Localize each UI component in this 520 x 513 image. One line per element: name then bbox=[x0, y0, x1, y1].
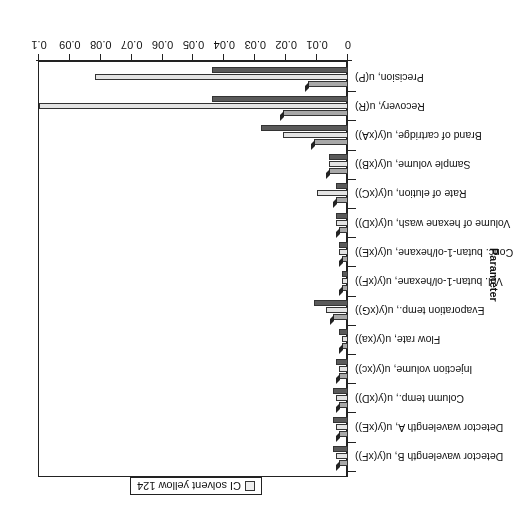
x-tick-label: 0.07 bbox=[121, 39, 142, 51]
bar bbox=[95, 74, 348, 80]
y-axis-label: Parameter bbox=[488, 248, 500, 302]
bar bbox=[339, 431, 348, 437]
x-tick bbox=[285, 54, 286, 61]
bar bbox=[333, 417, 348, 423]
bar bbox=[336, 183, 348, 189]
bar bbox=[336, 453, 348, 459]
bar bbox=[339, 366, 348, 372]
category-tick bbox=[348, 442, 356, 443]
category-tick bbox=[348, 354, 356, 355]
x-tick-label: 0.05 bbox=[183, 39, 204, 51]
bar bbox=[336, 424, 348, 430]
bar bbox=[342, 278, 348, 284]
bar bbox=[342, 343, 348, 349]
category-tick bbox=[348, 150, 356, 151]
bar bbox=[333, 446, 348, 452]
bar bbox=[339, 460, 348, 466]
x-tick bbox=[38, 54, 39, 61]
rotated-chart: CI solvent yellow 124 00.010.020.030.040… bbox=[0, 0, 520, 513]
bar bbox=[333, 314, 348, 320]
bar bbox=[212, 96, 348, 102]
bar bbox=[308, 81, 348, 87]
bar bbox=[261, 125, 348, 131]
x-tick bbox=[347, 54, 348, 61]
bar bbox=[336, 220, 348, 226]
x-tick-label: 0.09 bbox=[59, 39, 80, 51]
bar bbox=[336, 213, 348, 219]
bar bbox=[339, 227, 348, 233]
category-label: Evaporation temp., u(y(xG)) bbox=[355, 305, 485, 317]
bar bbox=[342, 285, 348, 291]
category-label: Detector wavelength A, u(y(xE)) bbox=[355, 422, 503, 434]
category-tick bbox=[348, 237, 356, 238]
bar bbox=[333, 388, 348, 394]
x-tick-label: 0.04 bbox=[214, 39, 235, 51]
category-tick bbox=[348, 412, 356, 413]
x-tick-label: 0.08 bbox=[90, 39, 111, 51]
category-tick bbox=[348, 208, 356, 209]
x-tick bbox=[193, 54, 194, 61]
x-tick-label: 0 bbox=[345, 39, 351, 51]
category-label: Brand of cartridge, u(y(xA)) bbox=[355, 130, 482, 142]
bar bbox=[314, 300, 348, 306]
category-label: Flow rate, u(y(xa)) bbox=[355, 334, 440, 346]
bar bbox=[336, 359, 348, 365]
category-label: Recovery, u(R) bbox=[355, 101, 425, 113]
x-axis bbox=[36, 60, 352, 61]
x-tick bbox=[131, 54, 132, 61]
bar bbox=[342, 271, 348, 277]
bar bbox=[317, 190, 348, 196]
category-label: Precision, u(P) bbox=[355, 72, 424, 84]
bar bbox=[342, 256, 348, 262]
x-tick bbox=[223, 54, 224, 61]
x-tick-label: 0.1 bbox=[31, 39, 46, 51]
x-tick bbox=[316, 54, 317, 61]
bar bbox=[339, 329, 348, 335]
category-label: Column temp., u(y(xD)) bbox=[355, 393, 464, 405]
x-tick-label: 0.01 bbox=[306, 39, 327, 51]
category-tick bbox=[348, 383, 356, 384]
x-tick bbox=[100, 54, 101, 61]
category-tick bbox=[348, 296, 356, 297]
bar bbox=[339, 373, 348, 379]
category-label: Sample volume, u(y(xB)) bbox=[355, 159, 471, 171]
category-label: Vol. butan-1-ol/hexane, u(y(xF)) bbox=[355, 276, 503, 288]
plot-area bbox=[38, 61, 348, 477]
bar bbox=[39, 103, 348, 109]
bar bbox=[283, 110, 348, 116]
bar bbox=[283, 132, 348, 138]
legend-label: CI solvent yellow 124 bbox=[137, 480, 241, 492]
x-tick bbox=[162, 54, 163, 61]
bar bbox=[336, 395, 348, 401]
category-label: Injection volume, u(y(xc)) bbox=[355, 364, 472, 376]
bar bbox=[339, 242, 348, 248]
x-tick-label: 0.02 bbox=[275, 39, 296, 51]
bar bbox=[329, 154, 348, 160]
category-tick bbox=[348, 471, 356, 472]
x-tick bbox=[69, 54, 70, 61]
legend: CI solvent yellow 124 bbox=[130, 477, 262, 495]
bar bbox=[314, 139, 348, 145]
bar bbox=[326, 307, 348, 313]
bar bbox=[342, 336, 348, 342]
bar bbox=[212, 67, 348, 73]
category-tick bbox=[348, 266, 356, 267]
legend-swatch bbox=[245, 481, 255, 491]
bar bbox=[339, 402, 348, 408]
category-tick bbox=[348, 179, 356, 180]
category-label: Rate of elution, u(y(xC)) bbox=[355, 188, 466, 200]
bar bbox=[329, 168, 348, 174]
bar bbox=[339, 249, 348, 255]
category-label: Volume of hexane wash, u(y(xD)) bbox=[355, 218, 510, 230]
category-tick bbox=[348, 91, 356, 92]
x-tick bbox=[254, 54, 255, 61]
category-tick bbox=[348, 120, 356, 121]
x-tick-label: 0.03 bbox=[245, 39, 266, 51]
bar bbox=[329, 161, 348, 167]
category-tick bbox=[348, 325, 356, 326]
category-label: Detector wavelength B, u(y(xF)) bbox=[355, 451, 503, 463]
x-tick-label: 0.06 bbox=[152, 39, 173, 51]
bar bbox=[336, 197, 348, 203]
